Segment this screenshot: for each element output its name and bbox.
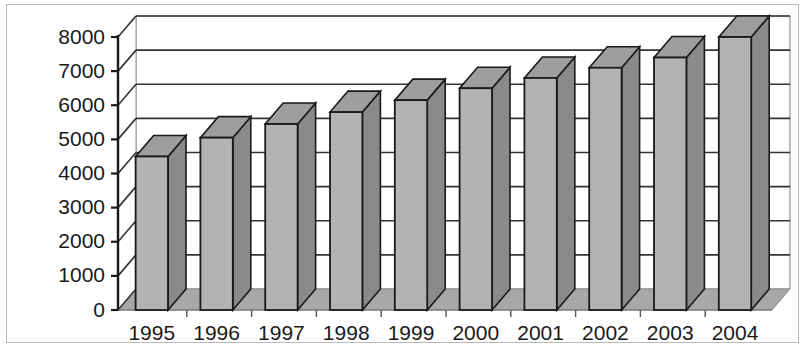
bar-side-face xyxy=(686,36,704,310)
bar-column xyxy=(654,36,704,310)
bar-column xyxy=(395,79,445,310)
x-axis-tick-label: 1997 xyxy=(258,321,305,344)
bar-side-face xyxy=(427,79,445,310)
bar-column xyxy=(524,57,574,310)
bar-front-face xyxy=(200,138,232,310)
column-chart: 010002000300040005000600070008000 199519… xyxy=(0,0,805,357)
y-axis-tick-label: 1000 xyxy=(58,263,105,286)
x-axis-tick-label: 2003 xyxy=(647,321,694,344)
bar-side-face xyxy=(751,16,769,310)
y-axis-labels: 010002000300040005000600070008000 xyxy=(58,25,105,321)
x-axis-tick-label: 2000 xyxy=(452,321,499,344)
x-axis-labels: 1995199619971998199920002001200220032004 xyxy=(128,321,758,344)
y-axis-tick-label: 6000 xyxy=(58,93,105,116)
x-axis-tick-label: 1996 xyxy=(193,321,240,344)
bar-front-face xyxy=(460,88,492,310)
bar-column xyxy=(589,47,639,310)
x-axis-tick-label: 1995 xyxy=(128,321,175,344)
bar-side-face xyxy=(168,135,186,310)
bar-column xyxy=(265,103,315,310)
bar-side-face xyxy=(557,57,575,310)
bar-front-face xyxy=(265,124,297,310)
x-axis-tick-label: 2002 xyxy=(582,321,629,344)
bar-column xyxy=(136,135,186,310)
bar-side-face xyxy=(233,117,251,310)
bar-column xyxy=(460,67,510,310)
bar-front-face xyxy=(719,37,751,310)
chart-figure: 010002000300040005000600070008000 199519… xyxy=(0,0,805,357)
x-axis-tick-label: 1998 xyxy=(323,321,370,344)
bar-front-face xyxy=(330,112,362,310)
bar-column xyxy=(719,16,769,310)
bar-side-face xyxy=(622,47,640,310)
bar-side-face xyxy=(362,91,380,310)
x-axis-tick-label: 2001 xyxy=(517,321,564,344)
bar-front-face xyxy=(524,78,556,310)
x-axis-tick-label: 1999 xyxy=(388,321,435,344)
y-axis-tick-label: 0 xyxy=(93,298,105,321)
bar-front-face xyxy=(395,100,427,310)
bar-front-face xyxy=(654,57,686,310)
y-axis-tick-label: 3000 xyxy=(58,195,105,218)
bar-front-face xyxy=(136,156,168,310)
bar-column xyxy=(200,117,250,310)
bar-column xyxy=(330,91,380,310)
bar-front-face xyxy=(589,68,621,310)
x-axis-tick-label: 2004 xyxy=(712,321,759,344)
y-axis-tick-label: 8000 xyxy=(58,25,105,48)
y-axis-tick-label: 5000 xyxy=(58,127,105,150)
y-axis-tick-label: 7000 xyxy=(58,59,105,82)
bar-side-face xyxy=(298,103,316,310)
y-axis-tick-label: 4000 xyxy=(58,161,105,184)
bar-side-face xyxy=(492,67,510,310)
y-axis-tick-label: 2000 xyxy=(58,229,105,252)
